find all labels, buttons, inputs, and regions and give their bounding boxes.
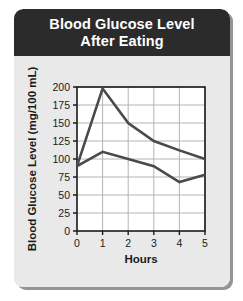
y-tick-label: 75 — [58, 171, 70, 183]
y-tick-label: 50 — [58, 189, 70, 201]
x-tick-label: 5 — [202, 237, 208, 249]
y-axis-title: Blood Glucose Level (mg/100 mL) — [26, 66, 38, 251]
chart-title-line-1: Blood Glucose Level — [49, 16, 194, 33]
y-tick-label: 200 — [52, 81, 70, 93]
x-tick-label: 2 — [125, 237, 131, 249]
y-tick-label: 125 — [52, 135, 70, 147]
chart-title-bar: Blood Glucose Level After Eating — [14, 9, 230, 56]
x-tick-label: 4 — [176, 237, 182, 249]
plot-container: 0255075100125150175200 012345 Blood Gluc… — [14, 56, 230, 287]
x-tick-label: 1 — [100, 237, 106, 249]
x-tick-label: 3 — [151, 237, 157, 249]
chart-card: Blood Glucose Level After Eating 0255075… — [14, 9, 230, 287]
x-tick-label: 0 — [74, 237, 80, 249]
y-tick-label: 25 — [58, 207, 70, 219]
x-axis-title: Hours — [124, 253, 157, 265]
y-tick-label: 0 — [64, 225, 70, 237]
y-tick-label: 100 — [52, 153, 70, 165]
figure-root: Blood Glucose Level After Eating 0255075… — [0, 0, 243, 301]
y-tick-label: 150 — [52, 117, 70, 129]
y-tick-label: 175 — [52, 99, 70, 111]
line-chart: 0255075100125150175200 012345 Blood Gluc… — [14, 56, 230, 287]
chart-title-line-2: After Eating — [80, 33, 163, 50]
